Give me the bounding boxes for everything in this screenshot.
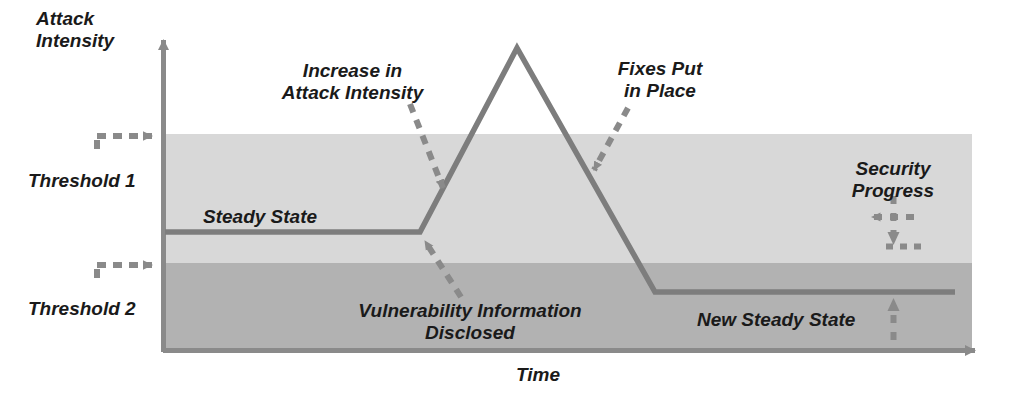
steady-state-label: Steady State <box>203 206 317 228</box>
y-axis-title: AttackIntensity <box>36 8 114 53</box>
fixes-annotation-label: Fixes Putin Place <box>580 58 740 103</box>
x-axis-title: Time <box>488 364 588 386</box>
security-progress-line1: Security <box>856 158 931 179</box>
attack-intensity-diagram: AttackIntensity Threshold 1 Threshold 2 … <box>0 0 1011 403</box>
threshold1-indicator <box>94 136 152 149</box>
fixes-annotation-line1: Fixes Put <box>618 58 702 79</box>
vulnerability-annotation-label: Vulnerability InformationDisclosed <box>325 300 615 345</box>
y-axis-title-line1: Attack <box>36 8 94 29</box>
threshold1-label: Threshold 1 <box>28 170 136 192</box>
increase-annotation-line2: Attack Intensity <box>282 82 423 103</box>
vulnerability-annotation-line2: Disclosed <box>425 322 515 343</box>
fixes-annotation-line2: in Place <box>624 80 696 101</box>
new-steady-state-label: New Steady State <box>697 309 855 331</box>
security-progress-label: SecurityProgress <box>833 158 953 203</box>
increase-annotation-line1: Increase in <box>303 60 402 81</box>
vulnerability-annotation-line1: Vulnerability Information <box>358 300 581 321</box>
security-progress-line2: Progress <box>852 180 934 201</box>
increase-annotation-label: Increase inAttack Intensity <box>245 60 460 105</box>
y-axis-title-line2: Intensity <box>36 30 114 51</box>
threshold2-label: Threshold 2 <box>28 298 136 320</box>
threshold2-indicator <box>94 265 152 278</box>
